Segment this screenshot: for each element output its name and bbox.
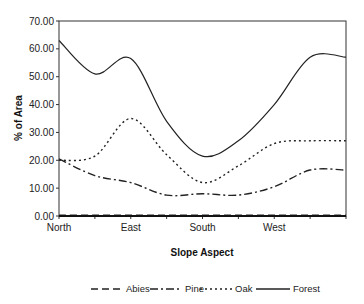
series-line-oak <box>59 118 346 182</box>
plot-area-frame <box>59 21 346 216</box>
x-tick-label: South <box>189 222 215 233</box>
y-tick-label: 40.00 <box>29 99 54 110</box>
series-line-pine <box>59 159 346 196</box>
legend: AbiesPineOakForest <box>91 283 320 294</box>
x-tick-label: North <box>47 222 71 233</box>
x-tick-label: East <box>121 222 141 233</box>
y-axis-title: % of Area <box>13 95 24 141</box>
legend-label-forest: Forest <box>293 283 320 294</box>
y-tick-label: 10.00 <box>29 183 54 194</box>
y-tick-label: 30.00 <box>29 127 54 138</box>
y-tick-label: 20.00 <box>29 155 54 166</box>
y-axis-ticks: 0.0010.0020.0030.0040.0050.0060.0070.00 <box>29 16 59 222</box>
series-lines <box>59 41 346 216</box>
x-tick-label: West <box>263 222 286 233</box>
legend-label-abies: Abies <box>126 283 150 294</box>
y-tick-label: 60.00 <box>29 43 54 54</box>
y-tick-label: 50.00 <box>29 71 54 82</box>
svg-text:% of Area: % of Area <box>13 95 24 141</box>
y-tick-label: 70.00 <box>29 16 54 27</box>
line-chart: % of Area 0.0010.0020.0030.0040.0050.006… <box>0 0 364 304</box>
legend-label-oak: Oak <box>235 283 253 294</box>
x-axis-title: Slope Aspect <box>171 247 235 258</box>
x-axis-ticks: NorthEastSouthWest <box>47 216 346 233</box>
series-line-forest <box>59 41 346 157</box>
y-tick-label: 0.00 <box>35 211 55 222</box>
